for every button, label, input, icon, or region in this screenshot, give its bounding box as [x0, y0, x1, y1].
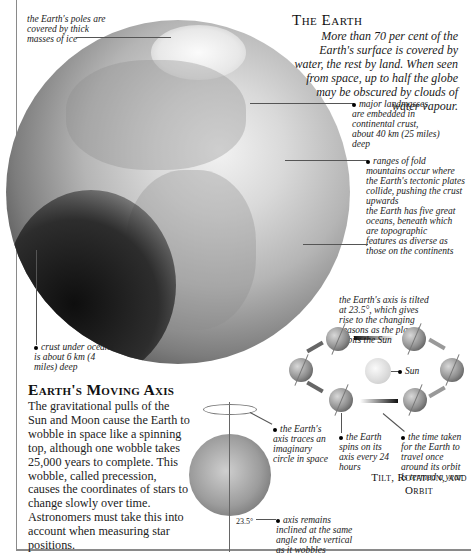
vertical-reference-line [229, 402, 230, 552]
label-oceans: the Earth has five great oceans, beneath… [366, 206, 458, 256]
leader-line-circle [250, 412, 273, 425]
precession-circle-icon [203, 404, 257, 415]
bullet-icon [352, 103, 356, 107]
leader-line-landmasses [250, 103, 354, 104]
label-ocean-crust: crust under oceans is about 6 km (4 mile… [34, 342, 114, 372]
bullet-icon [273, 428, 277, 432]
label-mountains: ranges of fold mountains occur where the… [366, 156, 466, 206]
orbit-arrow-icon [306, 341, 324, 353]
leader-line-poles [76, 37, 171, 38]
label-spin: the Earth spins on its axis every 24 hou… [339, 432, 391, 472]
orbit-earth-1 [326, 327, 350, 351]
leader-line-mountains [285, 160, 368, 161]
bullet-icon [398, 370, 402, 374]
label-axis-inclined: axis remains inclined at the same angle … [276, 515, 361, 555]
bullet-icon [366, 160, 370, 164]
bullet-icon [276, 519, 280, 523]
leader-line-inclined [256, 519, 276, 520]
orbit-earth-2 [402, 327, 426, 351]
label-axis-circle: the Earth's axis traces an imaginary cir… [273, 424, 335, 464]
page-title: The Earth [292, 12, 363, 29]
leader-line-oceans [303, 244, 368, 245]
leader-line-spin [341, 413, 342, 433]
orbit-arrow-icon [428, 386, 446, 398]
label-landmasses: major landmasses are embedded in contine… [352, 99, 442, 149]
precession-globe-image [189, 434, 271, 516]
orbit-earth-5 [329, 388, 353, 412]
section-title-orbit: Tilt, Rotation, and Orbit [371, 471, 467, 497]
orbit-arrow-left-icon [354, 336, 394, 340]
orbit-arrow-right-icon [360, 399, 398, 403]
bullet-icon [339, 436, 343, 440]
section-title-moving-axis: Earth's Moving Axis [28, 381, 174, 399]
orbit-earth-3 [289, 358, 313, 382]
orbit-earth-4 [440, 358, 464, 382]
angle-label: 23.5° [236, 517, 253, 526]
label-poles: the Earth's poles are covered by thick m… [27, 14, 107, 44]
bullet-icon [401, 436, 405, 440]
orbit-arrow-icon [306, 381, 324, 393]
moving-axis-body: The gravitational pulls of the Sun and M… [28, 400, 190, 553]
bullet-icon [34, 346, 38, 350]
sun-image [365, 358, 391, 384]
leader-line-ocean-crust [36, 250, 37, 345]
leader-line-year [383, 413, 405, 432]
label-sun: Sun [398, 366, 419, 376]
orbit-earth-6 [403, 388, 427, 412]
landmass-eurasia [66, 60, 246, 170]
